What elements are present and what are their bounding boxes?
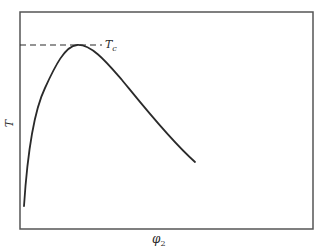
- critical-temperature-label: Tc: [105, 38, 117, 53]
- annot-subscript: c: [112, 44, 116, 53]
- x-axis-label: φ2: [152, 232, 166, 248]
- plot-area: [0, 0, 319, 250]
- x-axis-subscript: 2: [160, 239, 165, 248]
- phase-diagram-figure: T Tc φ2: [0, 0, 319, 250]
- coexistence-curve: [24, 45, 195, 206]
- y-axis-label: T: [3, 118, 16, 130]
